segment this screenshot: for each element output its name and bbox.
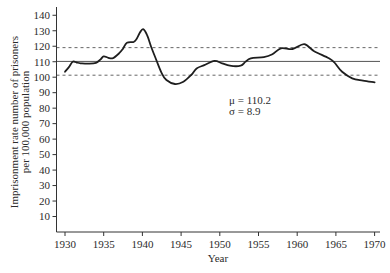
x-tick-label: 1930 bbox=[54, 238, 77, 250]
y-tick-label: 50 bbox=[39, 148, 51, 160]
x-tick-label: 1950 bbox=[209, 238, 232, 250]
x-axis-title: Year bbox=[208, 252, 229, 264]
y-tick-label: 70 bbox=[39, 117, 51, 129]
y-tick-label: 90 bbox=[39, 86, 51, 98]
x-tick-label: 1955 bbox=[248, 238, 271, 250]
y-tick-label: 80 bbox=[39, 102, 51, 114]
x-tick-label: 1970 bbox=[364, 238, 387, 250]
y-tick-label: 40 bbox=[39, 164, 51, 176]
x-tick-label: 1965 bbox=[325, 238, 348, 250]
y-tick-label: 10 bbox=[39, 210, 51, 222]
y-tick-label: 60 bbox=[39, 133, 51, 145]
y-tick-label: 110 bbox=[34, 56, 51, 68]
x-axis-ticks: 193019351940194519501955196019651970 bbox=[54, 232, 386, 250]
y-axis-title-line-2: per 100,000 population bbox=[19, 70, 31, 173]
x-tick-label: 1940 bbox=[131, 238, 154, 250]
data-series-line bbox=[65, 29, 375, 84]
y-tick-label: 20 bbox=[39, 195, 51, 207]
y-axis-ticks: 102030405060708090100110120130140 bbox=[34, 9, 57, 222]
statistics-annotation: μ = 110.2σ = 8.9 bbox=[229, 94, 271, 117]
y-tick-label: 140 bbox=[34, 9, 51, 21]
y-tick-label: 130 bbox=[34, 25, 51, 37]
y-tick-label: 120 bbox=[34, 40, 51, 52]
x-tick-label: 1935 bbox=[93, 238, 116, 250]
y-tick-label: 100 bbox=[34, 71, 51, 83]
y-tick-label: 30 bbox=[39, 179, 51, 191]
x-tick-label: 1945 bbox=[170, 238, 193, 250]
sd-annotation: σ = 8.9 bbox=[229, 105, 261, 117]
line-chart: Imprisonment rate number of prisoners pe… bbox=[0, 0, 390, 273]
y-axis-title: Imprisonment rate number of prisoners pe… bbox=[8, 36, 31, 208]
x-tick-label: 1960 bbox=[286, 238, 309, 250]
